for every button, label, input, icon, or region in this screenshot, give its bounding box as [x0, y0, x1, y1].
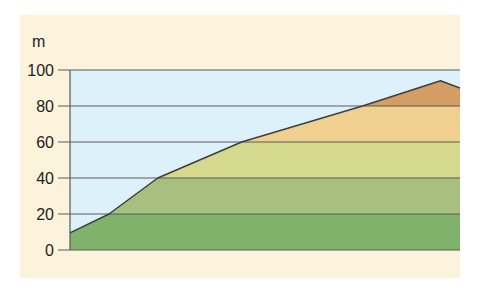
- y-tick-label-100: 100: [27, 62, 54, 79]
- elevation-band-0-20: [70, 214, 460, 250]
- chart-card: 020406080100m: [20, 15, 460, 278]
- y-tick-label-60: 60: [36, 134, 54, 151]
- y-tick-label-80: 80: [36, 98, 54, 115]
- y-tick-label-0: 0: [45, 242, 54, 259]
- y-tick-label-20: 20: [36, 206, 54, 223]
- y-axis-unit-label: m: [32, 33, 45, 50]
- y-tick-label-40: 40: [36, 170, 54, 187]
- elevation-chart: 020406080100m: [20, 15, 460, 278]
